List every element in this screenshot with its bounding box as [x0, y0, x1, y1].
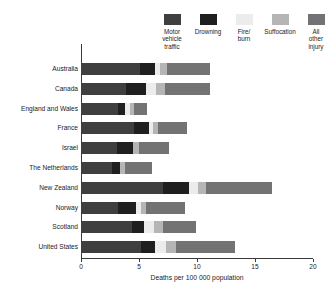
y-axis-label-united-states: United States — [0, 243, 78, 251]
legend-label-suffocation: Suffocation — [264, 28, 295, 35]
legend-label-fire-burn: Fire/ burn — [238, 28, 251, 43]
legend-item-fire-burn[interactable]: Fire/ burn — [227, 14, 261, 43]
bar-segment-drowning[interactable] — [163, 182, 189, 194]
bar-segment-suffocation[interactable] — [160, 63, 167, 75]
bar-segment-all-other-injury[interactable] — [176, 241, 235, 253]
y-axis-label-norway: Norway — [0, 204, 78, 212]
bar-segment-motor-vehicle-traffic[interactable] — [81, 221, 132, 233]
bar-segment-all-other-injury[interactable] — [139, 142, 169, 154]
bar-segment-motor-vehicle-traffic[interactable] — [81, 241, 141, 253]
bar-row[interactable] — [81, 202, 185, 214]
x-axis-tick — [197, 259, 198, 262]
bar-segment-drowning[interactable] — [134, 122, 149, 134]
x-axis-tick — [139, 259, 140, 262]
plot-area — [81, 58, 313, 256]
legend-swatch-suffocation — [272, 14, 289, 25]
bar-segment-suffocation[interactable] — [156, 83, 164, 95]
bar-segment-drowning[interactable] — [112, 162, 120, 174]
bar-segment-motor-vehicle-traffic[interactable] — [81, 122, 134, 134]
bar-segment-fire-burn[interactable] — [155, 241, 165, 253]
bar-segment-fire-burn[interactable] — [146, 83, 156, 95]
bar-segment-drowning[interactable] — [140, 63, 155, 75]
x-axis-tick-label: 15 — [245, 263, 265, 271]
bar-segment-drowning[interactable] — [118, 103, 125, 115]
x-axis-tick-label: 5 — [129, 263, 149, 271]
bar-segment-motor-vehicle-traffic[interactable] — [81, 83, 126, 95]
bar-segment-drowning[interactable] — [126, 83, 146, 95]
bar-segment-all-other-injury[interactable] — [167, 63, 210, 75]
y-axis-label-israel: Israel — [0, 144, 78, 152]
bar-row[interactable] — [81, 182, 272, 194]
y-axis-label-england-and-wales: England and Wales — [0, 105, 78, 113]
y-axis-label-france: France — [0, 124, 78, 132]
bar-segment-motor-vehicle-traffic[interactable] — [81, 63, 140, 75]
bar-row[interactable] — [81, 103, 147, 115]
bar-segment-drowning[interactable] — [132, 221, 144, 233]
x-axis-tick-label: 10 — [187, 263, 207, 271]
bar-row[interactable] — [81, 63, 210, 75]
legend-swatch-drowning — [200, 14, 217, 25]
bar-segment-all-other-injury[interactable] — [163, 221, 195, 233]
legend-swatch-fire-burn — [236, 14, 253, 25]
legend-swatch-motor-vehicle-traffic — [164, 14, 181, 25]
x-axis-title: Deaths per 100 000 population — [81, 274, 313, 281]
bar-row[interactable] — [81, 142, 169, 154]
bar-segment-fire-burn[interactable] — [144, 221, 154, 233]
bar-segment-all-other-injury[interactable] — [206, 182, 272, 194]
legend-label-drowning: Drowning — [195, 28, 222, 35]
chart-legend: Motor vehicle trafficDrowningFire/ burnS… — [155, 14, 333, 50]
bar-segment-motor-vehicle-traffic[interactable] — [81, 202, 118, 214]
bar-row[interactable] — [81, 241, 235, 253]
bar-segment-fire-burn[interactable] — [189, 182, 198, 194]
bar-segment-motor-vehicle-traffic[interactable] — [81, 103, 118, 115]
bar-segment-all-other-injury[interactable] — [146, 202, 185, 214]
bar-segment-suffocation[interactable] — [198, 182, 206, 194]
bar-segment-suffocation[interactable] — [154, 221, 163, 233]
stacked-bar-chart: Motor vehicle trafficDrowningFire/ burnS… — [0, 0, 336, 293]
bar-segment-motor-vehicle-traffic[interactable] — [81, 182, 163, 194]
bar-segment-all-other-injury[interactable] — [158, 122, 187, 134]
legend-item-motor-vehicle-traffic[interactable]: Motor vehicle traffic — [155, 14, 189, 50]
bar-segment-all-other-injury[interactable] — [165, 83, 210, 95]
x-axis-tick — [81, 259, 82, 262]
bar-segment-drowning[interactable] — [118, 202, 135, 214]
bar-segment-motor-vehicle-traffic[interactable] — [81, 142, 117, 154]
y-axis-label-australia: Australia — [0, 65, 78, 73]
y-axis-label-new-zealand: New Zealand — [0, 184, 78, 192]
legend-label-motor-vehicle-traffic: Motor vehicle traffic — [162, 28, 182, 50]
bar-row[interactable] — [81, 162, 152, 174]
legend-item-drowning[interactable]: Drowning — [191, 14, 225, 35]
y-axis-labels: AustraliaCanadaEngland and WalesFranceIs… — [0, 58, 78, 256]
bar-segment-all-other-injury[interactable] — [134, 103, 147, 115]
bar-segment-drowning[interactable] — [141, 241, 155, 253]
bar-row[interactable] — [81, 122, 187, 134]
bar-segment-all-other-injury[interactable] — [125, 162, 152, 174]
legend-item-suffocation[interactable]: Suffocation — [263, 14, 297, 35]
legend-swatch-all-other-injury — [308, 14, 325, 25]
legend-item-all-other-injury[interactable]: All other injury — [299, 14, 333, 50]
legend-label-all-other-injury: All other injury — [308, 28, 323, 50]
bar-row[interactable] — [81, 83, 210, 95]
bar-segment-motor-vehicle-traffic[interactable] — [81, 162, 112, 174]
bar-segment-suffocation[interactable] — [166, 241, 176, 253]
x-axis-tick-label: 0 — [71, 263, 91, 271]
y-axis-label-canada: Canada — [0, 85, 78, 93]
x-axis-tick — [255, 259, 256, 262]
bar-row[interactable] — [81, 221, 196, 233]
bar-segment-drowning[interactable] — [117, 142, 133, 154]
x-axis-tick — [313, 259, 314, 262]
y-axis-label-the-netherlands: The Netherlands — [0, 164, 78, 172]
y-axis-label-scotland: Scotland — [0, 223, 78, 231]
x-axis-tick-label: 20 — [303, 263, 323, 271]
